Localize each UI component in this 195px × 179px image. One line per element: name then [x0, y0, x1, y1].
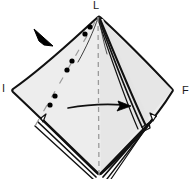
chain-dot: [64, 67, 69, 72]
chain-dot: [69, 58, 74, 63]
chain-dot: [52, 93, 57, 98]
fold-diagram-svg: [0, 0, 195, 179]
vertex-label-left: I: [2, 83, 5, 94]
vertex-label-right: F: [182, 85, 189, 96]
chain-dot: [47, 102, 52, 107]
paper-body: [12, 16, 173, 174]
fold-direction-arrowhead: [34, 29, 53, 46]
vertex-label-top: L: [93, 0, 99, 11]
chain-dot: [82, 31, 87, 36]
arrowhead-triangle: [34, 29, 53, 46]
chain-dot: [87, 24, 92, 29]
origami-diagram: L I F: [0, 0, 195, 179]
